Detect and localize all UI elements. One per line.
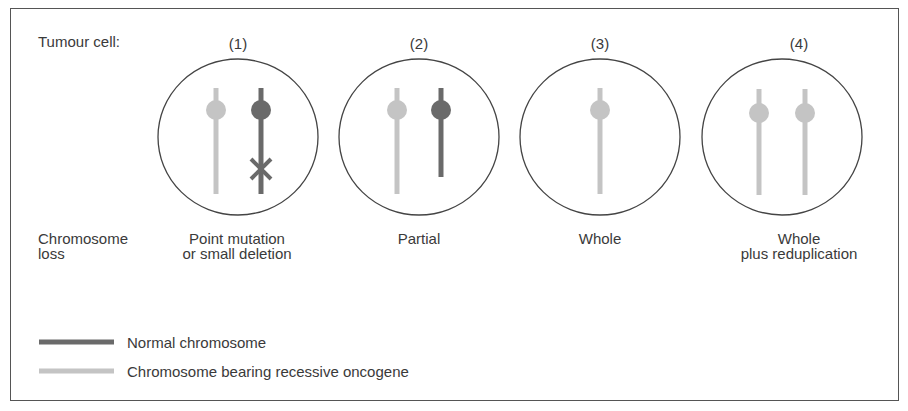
cell-caption-2: Partial: [398, 231, 441, 246]
mechanism-label-line1: Chromosome: [38, 231, 128, 246]
tumour-cell-1: [158, 59, 318, 215]
legend-label-recessive: Chromosome bearing recessive oncogene: [127, 364, 409, 379]
caption-1-line1: Point mutation: [182, 231, 291, 246]
caption-4-line2: plus reduplication: [741, 246, 858, 261]
caption-4-line1: Whole: [741, 231, 858, 246]
legend-label-normal: Normal chromosome: [127, 335, 266, 350]
tumour-cell-3: [520, 59, 680, 215]
tumour-cell-4: [702, 59, 862, 215]
cell-caption-3: Whole: [579, 231, 622, 246]
mechanism-label-line2: loss: [38, 246, 128, 261]
cell-caption-1: Point mutation or small deletion: [182, 231, 291, 261]
cell-caption-4: Whole plus reduplication: [741, 231, 858, 261]
tumour-cell-2: [339, 59, 499, 215]
caption-1-line2: or small deletion: [182, 246, 291, 261]
mechanism-label: Chromosome loss: [38, 231, 128, 261]
